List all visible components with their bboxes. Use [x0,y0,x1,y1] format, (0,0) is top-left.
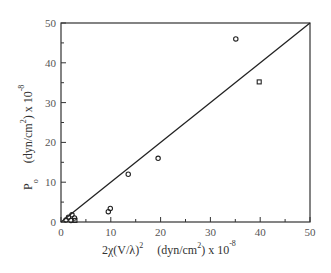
square-marker [257,80,261,84]
x-axis-label-main-sup: 2 [139,241,143,250]
scatter-chart: 0102030405001020304050 2χ(V/λ)2(dyn/cm2)… [0,0,331,273]
reference-line-group [61,23,310,222]
x-axis-label-unit-tail: ) x 10 [201,243,229,257]
y-axis-label-unit: (dyn/cm [21,123,35,164]
x-tick-label: 20 [155,226,167,238]
y-tick-label: 0 [51,216,57,228]
x-axis-label: 2χ(V/λ)2(dyn/cm2) x 10-8 [102,239,236,257]
circle-marker [156,156,160,160]
circle-marker [234,37,238,41]
y-tick-label: 40 [45,57,57,69]
circle-marker [126,172,130,176]
y-tick-label: 20 [45,136,57,148]
y-tick-label: 10 [45,176,57,188]
x-axis-label-exp: -8 [229,239,236,248]
y-axis-label-main-sub: o [31,179,40,183]
x-axis-label-main: 2χ(V/λ) [102,243,139,257]
x-axis-label-unit: (dyn/cm [157,243,198,257]
x-tick-label: 10 [105,226,117,238]
reference-line [61,23,310,222]
y-tick-label: 50 [45,17,57,29]
x-tick-label: 30 [205,226,217,238]
x-tick-label: 50 [305,226,317,238]
data-markers [64,37,261,223]
y-axis-label-unit-tail: ) x 10 [21,91,35,119]
y-axis-label: Po(dyn/cm2) x 10-8 [17,85,40,190]
y-tick-label: 30 [45,97,57,109]
y-axis-label-exp: -8 [17,85,26,92]
x-tick-label: 40 [255,226,267,238]
x-tick-label: 0 [58,226,64,238]
